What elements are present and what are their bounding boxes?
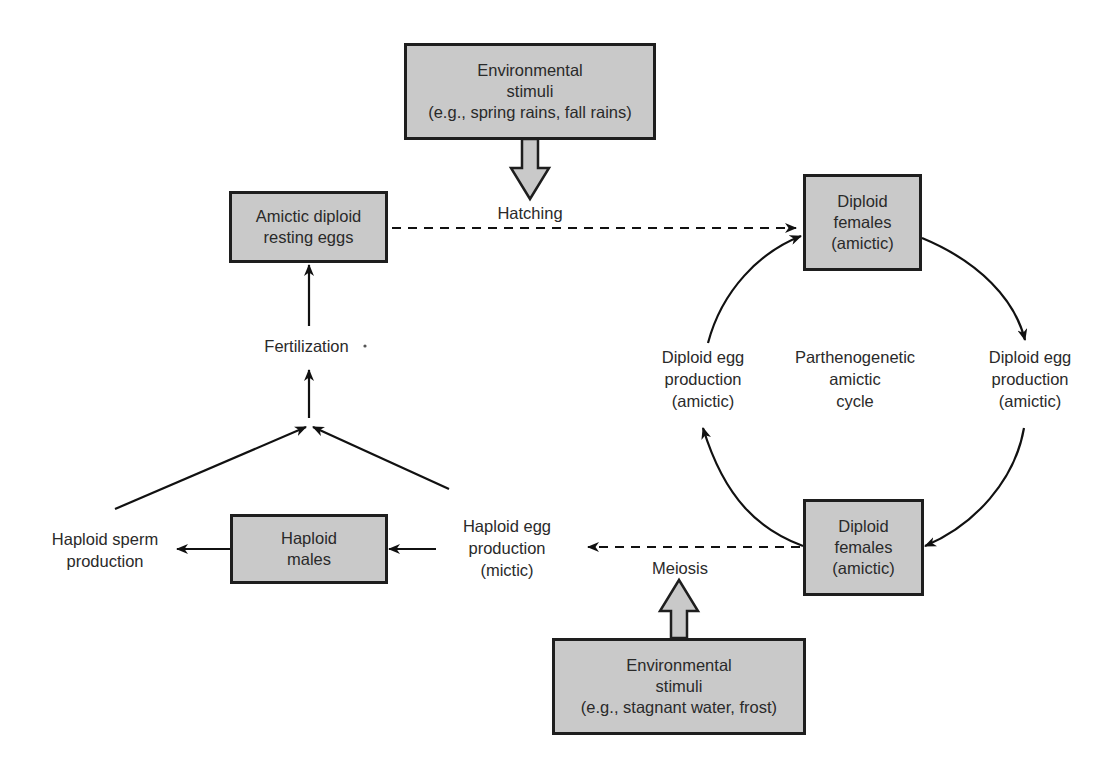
egg-left-line-1: Diploid egg [648, 346, 758, 368]
hollow-arrow-down-icon [511, 139, 549, 199]
haploid-egg-line-3: (mictic) [452, 559, 562, 581]
egg-left-line-3: (amictic) [648, 390, 758, 412]
egg-right-line-1: Diploid egg [975, 346, 1085, 368]
cycle-line-1: Parthenogenetic [790, 346, 920, 368]
haploid-males-line-2: males [287, 549, 331, 570]
sperm-line-1: Haploid sperm [40, 528, 170, 550]
hollow-arrow-up-icon [660, 580, 698, 638]
dft-line-3: (amictic) [831, 233, 893, 254]
curve-right-to-bottom [925, 428, 1024, 546]
env-bottom-line-3: (e.g., stagnant water, frost) [581, 697, 777, 718]
env-bottom-line-2: stimuli [656, 676, 703, 697]
egg-left-line-2: production [648, 368, 758, 390]
haploid-males-line-1: Haploid [281, 528, 337, 549]
amictic-resting-eggs-box: Amictic diploid resting eggs [229, 191, 388, 263]
haploid-egg-line-1: Haploid egg [452, 515, 562, 537]
dft-line-2: females [834, 212, 892, 233]
meiosis-label: Meiosis [640, 557, 720, 579]
diploid-egg-production-right-label: Diploid egg production (amictic) [975, 346, 1085, 412]
diploid-females-top-box: Diploid females (amictic) [803, 174, 922, 271]
haploid-egg-line-2: production [452, 537, 562, 559]
egg-right-line-3: (amictic) [975, 390, 1085, 412]
env-stimuli-top-box: Environmental stimuli (e.g., spring rain… [404, 43, 656, 140]
env-top-line-1: Environmental [477, 60, 582, 81]
cycle-line-3: cycle [790, 390, 920, 412]
dfb-line-2: females [835, 537, 893, 558]
curve-bottom-to-left [703, 428, 803, 546]
amictic-eggs-line-1: Amictic diploid [256, 206, 361, 227]
sperm-line-2: production [40, 550, 170, 572]
curve-left-to-top [708, 236, 801, 343]
haploid-sperm-production-label: Haploid sperm production [40, 528, 170, 572]
env-bottom-line-1: Environmental [626, 655, 731, 676]
fertilization-label: Fertilization [249, 335, 364, 357]
haploid-egg-production-label: Haploid egg production (mictic) [452, 515, 562, 581]
parthenogenetic-cycle-label: Parthenogenetic amictic cycle [790, 346, 920, 412]
egg-to-fertilization-line [313, 427, 449, 489]
dfb-line-3: (amictic) [832, 558, 894, 579]
cycle-line-2: amictic [790, 368, 920, 390]
dfb-line-1: Diploid [838, 516, 888, 537]
amictic-eggs-line-2: resting eggs [264, 227, 354, 248]
env-top-line-3: (e.g., spring rains, fall rains) [428, 102, 632, 123]
curve-top-to-right [922, 238, 1025, 340]
hatching-label: Hatching [490, 202, 570, 224]
egg-right-line-2: production [975, 368, 1085, 390]
haploid-males-box: Haploid males [230, 514, 388, 584]
env-top-line-2: stimuli [507, 81, 554, 102]
sperm-to-fertilization-line [115, 427, 306, 509]
dft-line-1: Diploid [837, 191, 887, 212]
diploid-females-bottom-box: Diploid females (amictic) [803, 499, 924, 596]
diploid-egg-production-left-label: Diploid egg production (amictic) [648, 346, 758, 412]
env-stimuli-bottom-box: Environmental stimuli (e.g., stagnant wa… [552, 638, 806, 735]
